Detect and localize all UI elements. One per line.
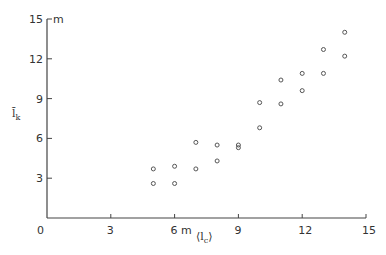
axes: 036 m912153691215 [29, 13, 376, 237]
x-tick-label: 3 [107, 224, 114, 237]
y-unit-label: m [53, 13, 64, 26]
y-tick-label: 3 [36, 172, 43, 185]
svg-text:l̄k: l̄k [12, 107, 21, 122]
data-point [343, 54, 347, 58]
scatter-chart: 036 m912153691215 m l̄k ⟨lc⟩ [0, 0, 386, 255]
x-tick-label: 6 m [171, 224, 192, 237]
data-point [258, 126, 262, 130]
data-point [173, 164, 177, 168]
y-tick-label: 15 [29, 13, 43, 26]
data-point [300, 89, 304, 93]
x-axis-label: ⟨lc⟩ [196, 230, 213, 245]
data-point [215, 143, 219, 147]
y-tick-label: 6 [36, 132, 43, 145]
data-point [215, 159, 219, 163]
data-point [194, 167, 198, 171]
x-tick-label: 0 [37, 224, 44, 237]
data-point [194, 140, 198, 144]
data-point [151, 182, 155, 186]
data-point [236, 146, 240, 150]
x-tick-label: 12 [298, 224, 312, 237]
data-point [343, 30, 347, 34]
data-points [151, 30, 346, 185]
x-tick-label: 15 [362, 224, 376, 237]
data-point [258, 101, 262, 105]
data-point [321, 71, 325, 75]
svg-text:⟨lc⟩: ⟨lc⟩ [196, 230, 213, 245]
data-point [321, 48, 325, 52]
y-axis-label: l̄k [12, 107, 21, 122]
x-tick-label: 9 [234, 224, 241, 237]
y-tick-label: 12 [29, 53, 43, 66]
data-point [279, 78, 283, 82]
data-point [279, 102, 283, 106]
data-point [300, 71, 304, 75]
data-point [173, 182, 177, 186]
data-point [151, 167, 155, 171]
y-tick-label: 9 [36, 93, 43, 106]
